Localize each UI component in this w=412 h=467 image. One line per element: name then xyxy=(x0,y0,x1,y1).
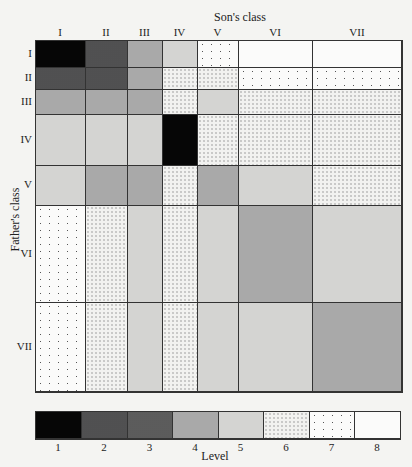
legend-tick-label: 6 xyxy=(263,441,309,453)
mosaic-cell xyxy=(127,302,163,393)
mosaic-cell xyxy=(312,67,403,90)
mosaic-cell xyxy=(85,302,128,393)
legend-swatch xyxy=(81,411,128,439)
row-label: III xyxy=(0,95,32,107)
legend-tick-label: 1 xyxy=(35,441,81,453)
mosaic-cell xyxy=(197,114,239,166)
legend-tick-label: 8 xyxy=(354,441,400,453)
y-axis-title: Father's class xyxy=(8,175,23,265)
mosaic-cell xyxy=(197,302,239,393)
mosaic-cell xyxy=(238,89,313,115)
mosaic-cell xyxy=(85,67,128,90)
mosaic-cell xyxy=(85,114,128,166)
legend-swatch xyxy=(309,411,355,439)
mosaic-cell xyxy=(312,114,403,166)
mosaic-cell xyxy=(162,165,198,206)
mosaic-cell xyxy=(312,89,403,115)
mosaic-cell xyxy=(127,205,163,303)
column-label: I xyxy=(35,26,85,38)
mosaic-cell xyxy=(197,40,239,68)
mosaic-cell xyxy=(312,165,403,206)
legend-swatch xyxy=(35,411,82,439)
legend-swatch xyxy=(263,411,310,439)
mosaic-cell xyxy=(238,114,313,166)
legend-swatch xyxy=(354,411,401,439)
mosaic-cell xyxy=(162,67,198,90)
legend-swatch xyxy=(127,411,173,439)
row-label: II xyxy=(0,71,32,83)
mosaic-cell xyxy=(85,205,128,303)
legend-tick-label: 2 xyxy=(81,441,127,453)
mosaic-cell xyxy=(238,40,313,68)
x-axis-title: Son's class xyxy=(180,10,300,25)
mosaic-cell xyxy=(35,205,86,303)
mosaic-cell xyxy=(35,89,86,115)
row-label: IV xyxy=(0,133,32,145)
mosaic-cell xyxy=(35,165,86,206)
mosaic-cell xyxy=(127,114,163,166)
column-label: VI xyxy=(238,26,312,38)
mosaic-cell xyxy=(127,89,163,115)
mosaic-cell xyxy=(312,302,403,393)
mosaic-cell xyxy=(85,89,128,115)
mosaic-cell xyxy=(162,89,198,115)
legend-title: Level xyxy=(190,449,240,464)
column-label: V xyxy=(197,26,238,38)
legend-swatch xyxy=(218,411,264,439)
mosaic-cell xyxy=(238,205,313,303)
column-label: VII xyxy=(312,26,402,38)
mosaic-cell xyxy=(85,165,128,206)
mosaic-cell xyxy=(162,114,198,166)
mosaic-cell xyxy=(312,40,403,68)
mosaic-cell xyxy=(162,302,198,393)
mosaic-cell xyxy=(197,165,239,206)
mosaic-cell xyxy=(85,40,128,68)
mosaic-cell xyxy=(238,67,313,90)
mosaic-cell xyxy=(127,67,163,90)
legend-swatch xyxy=(172,411,219,439)
mosaic-cell xyxy=(127,165,163,206)
mosaic-cell xyxy=(35,114,86,166)
mosaic-cell xyxy=(35,40,86,68)
row-label: I xyxy=(0,47,32,59)
mosaic-cell xyxy=(162,40,198,68)
legend-tick-label: 3 xyxy=(127,441,172,453)
mosaic-cell xyxy=(197,89,239,115)
mosaic-cell xyxy=(312,205,403,303)
mosaic-cell xyxy=(35,67,86,90)
mosaic-cell xyxy=(127,40,163,68)
mosaic-cell xyxy=(238,165,313,206)
column-label: II xyxy=(85,26,127,38)
mosaic-cell xyxy=(197,67,239,90)
column-label: III xyxy=(127,26,162,38)
mosaic-cell xyxy=(238,302,313,393)
legend-tick-label: 7 xyxy=(309,441,354,453)
mosaic-cell xyxy=(35,302,86,393)
column-label: IV xyxy=(162,26,197,38)
mosaic-cell xyxy=(162,205,198,303)
row-label: VII xyxy=(0,340,32,352)
mosaic-cell xyxy=(197,205,239,303)
